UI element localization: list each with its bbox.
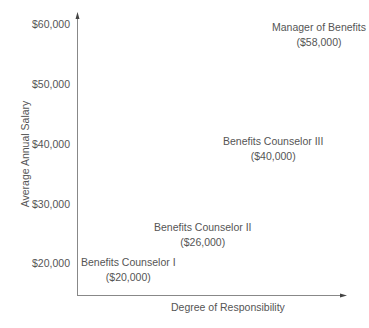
point-benefits-counselor-3: Benefits Counselor III ($40,000) <box>223 134 323 164</box>
y-tick-20000: $20,000 <box>10 257 70 269</box>
point-manager-of-benefits: Manager of Benefits ($58,000) <box>272 20 366 50</box>
point-value: ($58,000) <box>272 35 366 50</box>
point-name: Benefits Counselor III <box>223 134 323 149</box>
x-axis-arrow-icon <box>340 294 347 298</box>
y-tick-60000: $60,000 <box>10 18 70 30</box>
salary-chart: $60,000 $50,000 $40,000 $30,000 $20,000 … <box>0 0 369 328</box>
point-value: ($20,000) <box>81 270 176 285</box>
y-axis-label: Average Annual Salary <box>19 99 31 209</box>
point-value: ($26,000) <box>154 235 251 250</box>
y-tick-50000: $50,000 <box>10 78 70 90</box>
point-value: ($40,000) <box>223 149 323 164</box>
point-benefits-counselor-2: Benefits Counselor II ($26,000) <box>154 220 251 250</box>
y-axis-arrow-icon <box>76 12 80 19</box>
x-axis-label: Degree of Responsibility <box>171 301 285 313</box>
point-name: Manager of Benefits <box>272 20 366 35</box>
point-benefits-counselor-1: Benefits Counselor I ($20,000) <box>81 255 176 285</box>
point-name: Benefits Counselor I <box>81 255 176 270</box>
point-name: Benefits Counselor II <box>154 220 251 235</box>
